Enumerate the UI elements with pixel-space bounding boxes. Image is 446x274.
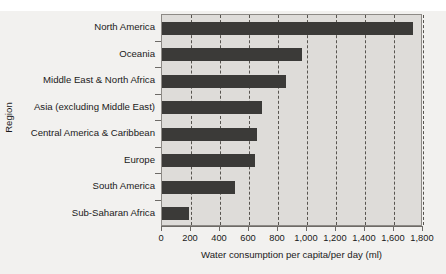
x-axis-tick: [219, 226, 220, 231]
x-axis-tick-label: 400: [211, 233, 227, 243]
x-axis-tick: [190, 226, 191, 231]
bar: [162, 128, 257, 141]
x-axis-tick-label: 1,800: [410, 233, 433, 243]
gridline: [365, 15, 366, 225]
y-axis-tick: [155, 120, 161, 121]
x-axis-tick: [393, 226, 394, 231]
x-axis-tick: [422, 226, 423, 231]
bar: [162, 207, 189, 220]
y-axis-tick-label: Sub-Saharan Africa: [10, 208, 155, 218]
x-axis-tick: [248, 226, 249, 231]
gridline: [278, 15, 279, 225]
bar: [162, 75, 286, 88]
y-axis-tick: [155, 200, 161, 201]
category-label-column: North AmericaOceaniaMiddle East & North …: [14, 14, 159, 226]
x-axis-tick: [306, 226, 307, 231]
x-axis-tick-label: 800: [269, 233, 285, 243]
x-axis-line: [161, 226, 422, 227]
chart-figure: Region North AmericaOceaniaMiddle East &…: [0, 0, 446, 274]
y-axis-tick: [155, 41, 161, 42]
y-axis-tick-label: North America: [10, 22, 155, 32]
gridline: [336, 15, 337, 225]
y-axis-label: Region: [3, 88, 14, 148]
y-axis-tick-label: Asia (excluding Middle East): [10, 102, 155, 112]
x-axis-tick: [161, 226, 162, 231]
x-axis-tick-label: 0: [158, 233, 163, 243]
x-axis-tick-label: 1,400: [352, 233, 375, 243]
x-axis-tick: [364, 226, 365, 231]
gridline: [394, 15, 395, 225]
x-axis-tick-label: 1,000: [294, 233, 317, 243]
x-axis-tick: [277, 226, 278, 231]
x-axis-tick-label: 600: [240, 233, 256, 243]
bar: [162, 48, 302, 61]
y-axis-tick: [155, 173, 161, 174]
bar: [162, 22, 413, 35]
bar: [162, 181, 235, 194]
bar: [162, 154, 255, 167]
y-axis-tick: [155, 147, 161, 148]
y-axis-tick-label: Europe: [10, 155, 155, 165]
x-axis-tick-label: 200: [182, 233, 198, 243]
y-axis-tick-label: Oceania: [10, 49, 155, 59]
plot-area: [161, 14, 422, 226]
y-axis-tick: [155, 67, 161, 68]
bar: [162, 101, 262, 114]
y-axis-tick: [155, 94, 161, 95]
y-axis-tick-label: Central America & Caribbean: [10, 128, 155, 138]
gridline: [423, 15, 424, 225]
x-axis-tick-label: 1,600: [381, 233, 404, 243]
x-axis-tick-label: 1,200: [323, 233, 346, 243]
gridline: [249, 15, 250, 225]
y-axis-tick-label: South America: [10, 181, 155, 191]
x-axis-label: Water consumption per capita/per day (ml…: [161, 249, 422, 260]
x-axis-tick: [335, 226, 336, 231]
y-axis-tick-label: Middle East & North Africa: [10, 75, 155, 85]
gridline: [307, 15, 308, 225]
